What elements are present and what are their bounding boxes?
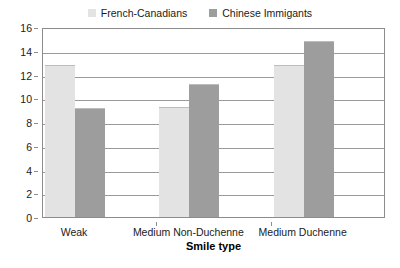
y-tick-label: 0	[26, 213, 32, 224]
y-tick-label: 12	[20, 70, 32, 81]
y-tick-label: 4	[26, 165, 32, 176]
legend-entry: French-Canadians	[88, 8, 187, 19]
legend-label: Chinese Immigants	[222, 8, 312, 19]
plot-area	[42, 28, 385, 218]
legend-swatch-icon	[209, 9, 217, 17]
bar	[304, 41, 334, 217]
y-tick-label: 6	[26, 142, 32, 153]
y-tick-mark	[34, 194, 38, 195]
x-tick-label: Weak	[61, 226, 88, 238]
bar	[75, 108, 105, 217]
y-tick-mark	[34, 99, 38, 100]
y-tick-label: 2	[26, 189, 32, 200]
bar	[45, 65, 75, 217]
x-tick-label: Medium Duchenne	[259, 226, 347, 238]
legend-swatch-icon	[88, 9, 96, 17]
y-tick-label: 14	[20, 47, 32, 58]
bar	[274, 65, 304, 217]
y-tick-mark	[34, 147, 38, 148]
y-tick-mark	[34, 52, 38, 53]
bar	[159, 107, 189, 217]
y-tick-mark	[34, 76, 38, 77]
y-tick-mark	[34, 171, 38, 172]
y-tick-label: 16	[20, 23, 32, 34]
legend-entry: Chinese Immigants	[209, 8, 312, 19]
bar-chart: French-CanadiansChinese Immigants 024681…	[0, 0, 400, 268]
x-tick-label: Medium Non-Duchenne	[133, 226, 244, 238]
y-axis: 0246810121416	[0, 28, 38, 218]
y-tick-mark	[34, 28, 38, 29]
x-tick-mark	[271, 222, 272, 226]
y-tick-mark	[34, 123, 38, 124]
legend-label: French-Canadians	[101, 8, 187, 19]
y-tick-mark	[34, 218, 38, 219]
x-tick-mark	[156, 222, 157, 226]
y-tick-label: 10	[20, 94, 32, 105]
y-tick-label: 8	[26, 118, 32, 129]
x-axis-title: Smile type	[42, 240, 385, 252]
bars-layer	[43, 29, 384, 217]
x-axis: WeakMedium Non-DuchenneMedium Duchenne	[42, 222, 385, 236]
bar	[189, 84, 219, 217]
chart-legend: French-CanadiansChinese Immigants	[0, 6, 400, 20]
